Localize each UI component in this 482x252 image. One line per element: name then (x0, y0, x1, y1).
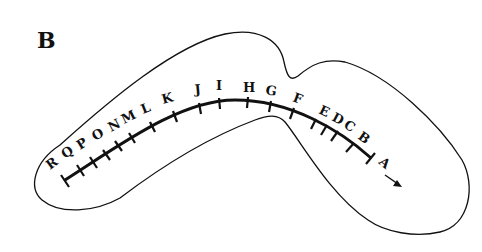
marker-label-h: H (243, 80, 255, 95)
marker-label-f: F (291, 90, 306, 108)
marker-label-o: O (89, 125, 106, 144)
marker-label-e: E (317, 102, 332, 120)
marker-label-j: J (193, 82, 201, 98)
marker-label-l: L (139, 99, 153, 116)
marker-label-m: M (119, 107, 139, 127)
marker-label-a: A (375, 153, 394, 172)
panel-label: B (37, 27, 56, 53)
chromosome-diagram: B A B C D E F G H I J K L M (0, 0, 482, 252)
marker-label-k: K (160, 89, 175, 107)
marker-label-b: B (355, 128, 373, 147)
marker-label-q: Q (58, 143, 76, 162)
marker-labels: A B C D E F G H I J K L M N O P Q R (43, 78, 394, 172)
marker-label-g: G (264, 82, 278, 99)
marker-label-i: I (216, 78, 222, 93)
arrow-down-right-icon (385, 175, 402, 187)
marker-label-p: P (74, 135, 90, 153)
